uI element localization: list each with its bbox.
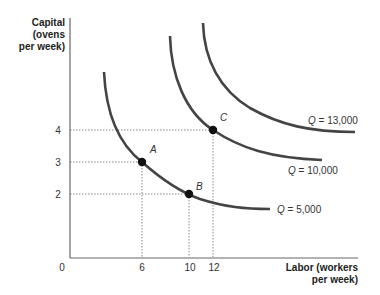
y-tick-2: 2 — [55, 189, 61, 200]
point-c — [209, 126, 217, 134]
isoquant-label-q5000: Q = 5,000 — [277, 204, 322, 215]
svg-text:Labor (workers: Labor (workers — [286, 262, 359, 273]
y-tick-4: 4 — [55, 125, 61, 136]
x-axis-label: Labor (workers per week) — [286, 262, 359, 285]
x-tick-10: 10 — [184, 262, 196, 273]
x-tick-12: 12 — [208, 262, 220, 273]
x-tick-0: 0 — [59, 262, 65, 273]
y-tick-3: 3 — [55, 157, 61, 168]
isoquant-label-q13000: Q = 13,000 — [308, 115, 358, 126]
axes — [70, 18, 358, 258]
point-label-a: A — [149, 144, 157, 155]
svg-text:per week): per week) — [19, 41, 65, 52]
point-a — [138, 158, 146, 166]
x-tick-6: 6 — [139, 262, 145, 273]
svg-text:per week): per week) — [312, 274, 358, 285]
isoquant-chart: A B C Q = 13,000 Q = 10,000 Q = 5,000 4 … — [0, 0, 380, 295]
isoquant-q5000 — [104, 72, 270, 209]
point-label-c: C — [220, 112, 228, 123]
svg-text:(ovens: (ovens — [33, 29, 66, 40]
isoquant-q10000 — [170, 36, 322, 160]
point-label-b: B — [196, 181, 203, 192]
point-b — [185, 190, 193, 198]
svg-text:Capital: Capital — [32, 17, 66, 28]
y-axis-label: Capital (ovens per week) — [19, 17, 66, 52]
isoquant-label-q10000: Q = 10,000 — [288, 165, 338, 176]
